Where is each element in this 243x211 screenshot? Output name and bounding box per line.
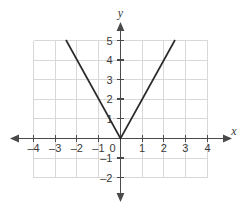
x-tick-label-1: 1 xyxy=(139,142,145,154)
y-tick-label-5: 5 xyxy=(106,35,112,47)
coordinate-plane-graph: –4 –3 –2 –1 0 1 2 3 4 5 4 3 2 1 –1 –2 x … xyxy=(0,0,243,211)
y-tick-label-3: 3 xyxy=(106,74,112,86)
y-tick-label--2: –2 xyxy=(100,172,112,184)
x-tick-label--2: –2 xyxy=(71,142,83,154)
y-tick-label-4: 4 xyxy=(106,54,112,66)
y-tick-label--1: –1 xyxy=(100,152,112,164)
x-axis-name-label: x xyxy=(230,124,237,138)
y-axis-name-label: y xyxy=(117,6,124,20)
x-tick-label--3: –3 xyxy=(49,142,61,154)
graph-svg: –4 –3 –2 –1 0 1 2 3 4 5 4 3 2 1 –1 –2 x … xyxy=(0,0,243,211)
y-tick-label-2: 2 xyxy=(106,93,112,105)
x-tick-label-3: 3 xyxy=(182,142,188,154)
x-tick-label-2: 2 xyxy=(161,142,167,154)
graph-background xyxy=(0,0,243,211)
x-tick-label-4: 4 xyxy=(204,142,210,154)
x-tick-label--4: –4 xyxy=(27,142,39,154)
